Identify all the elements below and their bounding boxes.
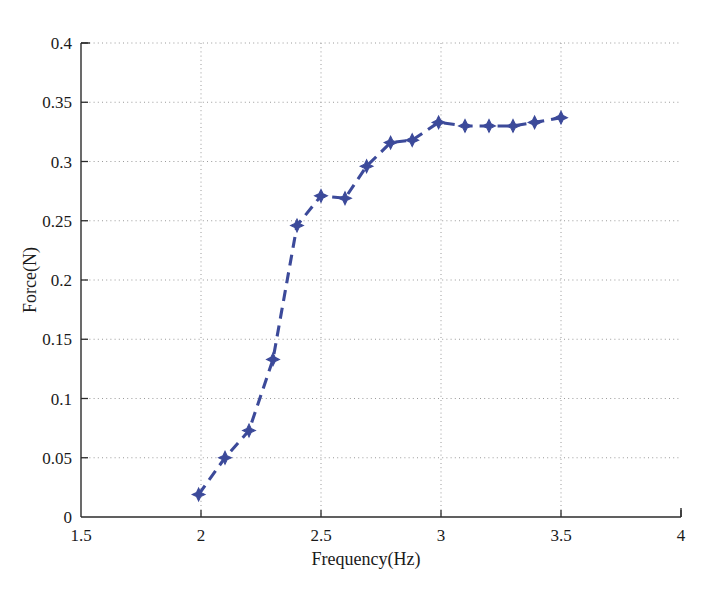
x-tick-label: 3 (437, 526, 446, 545)
y-tick-label: 0.3 (51, 153, 72, 172)
y-tick-label: 0.15 (42, 330, 72, 349)
y-tick-label: 0.35 (42, 93, 72, 112)
y-tick-label: 0 (64, 508, 73, 527)
figure-container: 1.522.533.54 00.050.10.150.20.250.30.350… (0, 0, 715, 596)
x-tick-label: 4 (677, 526, 686, 545)
x-axis-title: Frequency(Hz) (312, 549, 421, 570)
chart-background (0, 0, 715, 596)
x-tick-label: 1.5 (70, 526, 91, 545)
x-tick-label: 2 (197, 526, 206, 545)
force-frequency-line-chart: 1.522.533.54 00.050.10.150.20.250.30.350… (0, 0, 715, 596)
x-tick-label: 3.5 (550, 526, 571, 545)
y-tick-label: 0.05 (42, 449, 72, 468)
y-tick-label: 0.2 (51, 271, 72, 290)
y-axis-title: Force(N) (20, 247, 41, 313)
y-tick-label: 0.4 (51, 34, 73, 53)
x-tick-label: 2.5 (310, 526, 331, 545)
y-tick-label: 0.25 (42, 212, 72, 231)
y-tick-label: 0.1 (51, 390, 72, 409)
